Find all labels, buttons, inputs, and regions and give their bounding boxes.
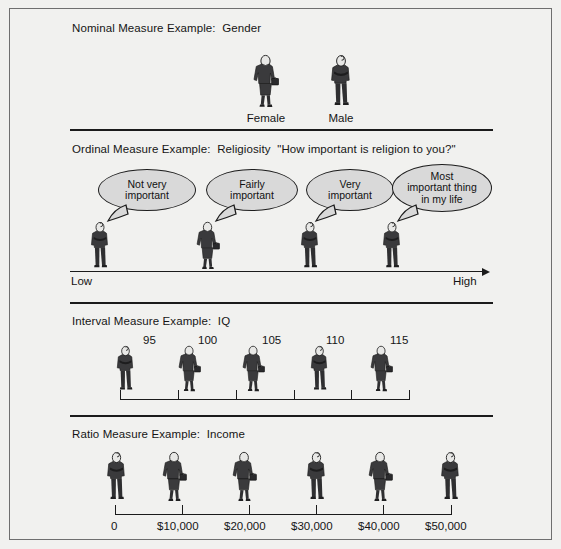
person-female-ratio-3 xyxy=(232,451,257,503)
ratio-section-title: Ratio Measure Example: Income xyxy=(72,428,245,440)
divider-3 xyxy=(70,415,493,417)
ratio-axis-line xyxy=(115,514,452,515)
nominal-label-female: Female xyxy=(235,112,297,124)
ratio-value-1: 0 xyxy=(111,520,117,532)
ordinal-section-title: Ordinal Measure Example: Religiosity "Ho… xyxy=(72,143,456,155)
ratio-value-3: $20,000 xyxy=(224,520,266,532)
ordinal-axis-arrowhead xyxy=(482,268,490,276)
person-female-ratio-2 xyxy=(162,451,187,503)
person-male-nominal xyxy=(328,54,354,109)
interval-value-1: 95 xyxy=(143,334,156,346)
divider-1 xyxy=(70,129,493,131)
ratio-value-4: $30,000 xyxy=(291,520,333,532)
ratio-axis-cap-left xyxy=(115,505,116,514)
figure-border: Nominal Measure Example: Gender Female xyxy=(9,8,552,540)
interval-axis-line xyxy=(120,399,410,400)
person-male-ratio-6 xyxy=(438,451,463,503)
person-female-ordinal-2 xyxy=(196,221,220,271)
person-male-ordinal-3 xyxy=(298,221,322,271)
person-male-ratio-4 xyxy=(304,451,329,503)
ratio-value-2: $10,000 xyxy=(157,520,199,532)
person-male-ordinal-1 xyxy=(88,221,112,271)
ratio-value-6: $50,000 xyxy=(425,520,467,532)
person-male-interval-1 xyxy=(114,345,137,393)
person-female-interval-5 xyxy=(370,345,393,393)
ratio-axis-tick-1 xyxy=(182,505,183,514)
measurement-levels-figure: Nominal Measure Example: Gender Female xyxy=(0,0,561,549)
ratio-axis-tick-3 xyxy=(316,505,317,514)
interval-axis-cap-left xyxy=(120,390,121,399)
ratio-axis-tick-2 xyxy=(249,505,250,514)
person-male-ratio-1 xyxy=(104,451,129,503)
person-male-ordinal-4 xyxy=(380,221,404,271)
person-female-ratio-5 xyxy=(368,451,393,503)
ratio-value-5: $40,000 xyxy=(358,520,400,532)
interval-axis-tick-2 xyxy=(236,390,237,399)
interval-axis-cap-right xyxy=(409,390,410,399)
ordinal-bubble-3-line-2: important xyxy=(324,190,376,202)
ordinal-bubble-1-line-2: important xyxy=(121,190,173,202)
person-female-nominal xyxy=(253,54,279,109)
divider-2 xyxy=(70,302,493,304)
interval-axis-tick-1 xyxy=(178,390,179,399)
person-female-interval-2 xyxy=(178,345,201,393)
interval-axis-tick-3 xyxy=(294,390,295,399)
person-female-interval-3 xyxy=(242,345,265,393)
ordinal-axis-label-high: High xyxy=(453,275,477,287)
ordinal-bubble-2-line-2: important xyxy=(226,190,278,202)
nominal-label-male: Male xyxy=(313,112,369,124)
ordinal-axis-label-low: Low xyxy=(71,275,92,287)
nominal-section-title: Nominal Measure Example: Gender xyxy=(72,22,261,34)
ratio-axis-cap-right xyxy=(451,505,452,514)
interval-axis-tick-4 xyxy=(351,390,352,399)
ordinal-axis-line xyxy=(70,271,484,272)
interval-section-title: Interval Measure Example: IQ xyxy=(72,315,230,327)
person-male-interval-4 xyxy=(308,345,331,393)
ratio-axis-tick-4 xyxy=(383,505,384,514)
